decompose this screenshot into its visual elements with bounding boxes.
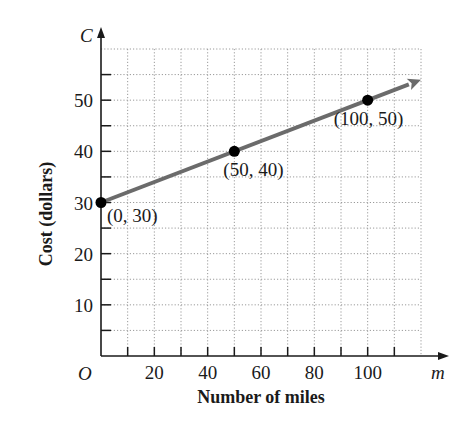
data-point — [96, 197, 107, 208]
point-label: (100, 50) — [334, 108, 404, 130]
data-point — [229, 146, 240, 157]
x-axis-arrow-icon — [438, 352, 449, 360]
x-tick-label: 60 — [252, 362, 271, 383]
y-tick-label: 50 — [74, 90, 93, 111]
x-axis-title: Number of miles — [197, 387, 325, 407]
point-label: (0, 30) — [107, 205, 158, 227]
y-tick-label: 30 — [74, 193, 93, 214]
y-tick-label: 40 — [74, 141, 93, 162]
x-axis-variable: m — [431, 362, 445, 383]
grid — [101, 49, 421, 356]
y-axis-variable: C — [80, 25, 93, 46]
cost-vs-miles-chart: 204060801001020304050 (0, 30)(50, 40)(10… — [0, 0, 473, 429]
point-label: (50, 40) — [223, 159, 283, 181]
x-tick-label: 20 — [145, 362, 164, 383]
x-tick-label: 40 — [198, 362, 217, 383]
y-tick-label: 10 — [74, 295, 93, 316]
x-tick-label: 100 — [353, 362, 382, 383]
tick-labels: 204060801001020304050 — [74, 90, 382, 383]
x-tick-label: 80 — [305, 362, 324, 383]
origin-label: O — [78, 363, 92, 384]
data-series — [96, 79, 422, 208]
y-axis-title: Cost (dollars) — [36, 162, 57, 267]
y-tick-label: 20 — [74, 244, 93, 265]
data-point — [362, 95, 373, 106]
y-axis-arrow-icon — [97, 27, 105, 38]
axes — [97, 27, 449, 360]
